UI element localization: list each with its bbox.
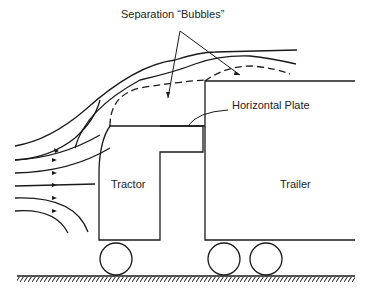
label-horizontal-plate: Horizontal Plate [232, 99, 310, 111]
wheel-tractor [100, 243, 132, 275]
label-separation-bubbles: Separation “Bubbles” [121, 8, 224, 20]
leader-separation-left [168, 31, 180, 98]
label-tractor: Tractor [111, 178, 145, 190]
wheel-trailer-front [208, 243, 240, 275]
leader-separation-right [180, 31, 240, 75]
streamline-1 [15, 50, 297, 146]
label-trailer: Trailer [280, 178, 311, 190]
separation-boundary-top [205, 66, 290, 81]
ground-hatch [17, 277, 355, 282]
streamline-4 [15, 135, 100, 160]
wheel-trailer-rear [250, 243, 282, 275]
leader-plate [188, 110, 228, 126]
streamline-7 [15, 198, 88, 232]
streamline-8 [15, 211, 68, 233]
diagram: Separation “Bubbles” Horizontal Plate Tr… [0, 0, 371, 303]
airflow-diagram [0, 0, 371, 303]
separation-boundary-front [110, 80, 205, 126]
